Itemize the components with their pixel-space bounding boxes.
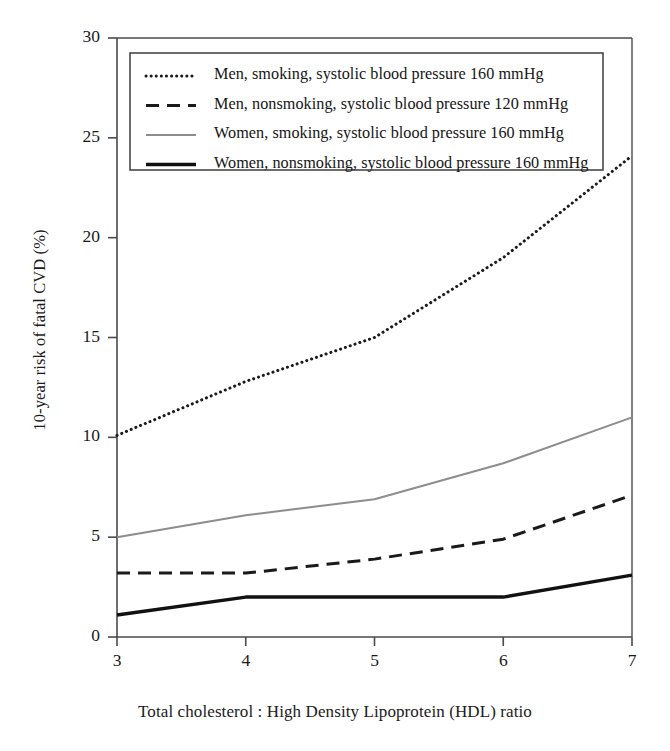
y-axis-title: 10-year risk of fatal CVD (%) <box>30 229 49 430</box>
y-tick-label: 10 <box>60 425 100 446</box>
legend-item-label-4: Women, nonsmoking, systolic blood pressu… <box>214 154 588 173</box>
x-tick-label: 3 <box>97 650 137 671</box>
x-axis-title: Total cholesterol : High Density Lipopro… <box>138 702 532 721</box>
x-axis-title-wrap: Total cholesterol : High Density Lipopro… <box>0 702 670 722</box>
series-line-2 <box>117 495 632 573</box>
y-tick-label: 25 <box>60 126 100 147</box>
series-lines <box>117 156 632 615</box>
y-tick-label: 0 <box>60 625 100 646</box>
x-axis-ticks <box>117 637 632 646</box>
y-tick-label: 15 <box>60 326 100 347</box>
y-axis-title-wrap: 10-year risk of fatal CVD (%) <box>30 100 50 560</box>
x-tick-label: 6 <box>483 650 523 671</box>
y-axis-ticks <box>108 38 117 637</box>
legend-item-label-1: Men, smoking, systolic blood pressure 16… <box>214 65 544 84</box>
y-tick-label: 30 <box>60 26 100 47</box>
x-tick-label: 7 <box>612 650 652 671</box>
x-tick-label: 4 <box>226 650 266 671</box>
chart-figure: 10-year risk of fatal CVD (%) Total chol… <box>0 0 670 751</box>
y-tick-label: 20 <box>60 226 100 247</box>
legend-item-label-2: Men, nonsmoking, systolic blood pressure… <box>214 95 568 114</box>
series-line-3 <box>117 417 632 537</box>
x-tick-label: 5 <box>355 650 395 671</box>
legend-item-label-3: Women, smoking, systolic blood pressure … <box>214 124 564 143</box>
series-line-4 <box>117 575 632 615</box>
y-tick-label: 5 <box>60 525 100 546</box>
series-line-1 <box>117 156 632 436</box>
